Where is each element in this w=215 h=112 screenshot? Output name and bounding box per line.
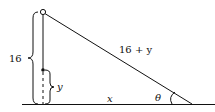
segment-label: y [56, 81, 63, 92]
angle-label: θ [155, 92, 161, 103]
pulley-triangle-diagram: 16 y 16 + y x θ [0, 0, 215, 112]
pulley-icon [40, 9, 45, 14]
rope-hypotenuse [44, 13, 192, 104]
base-label: x [107, 93, 113, 104]
weight-point [41, 68, 45, 72]
hypotenuse-label: 16 + y [119, 44, 152, 55]
height-brace [28, 12, 38, 104]
height-label: 16 [9, 53, 22, 64]
segment-brace [45, 70, 54, 104]
angle-arc [171, 92, 175, 104]
